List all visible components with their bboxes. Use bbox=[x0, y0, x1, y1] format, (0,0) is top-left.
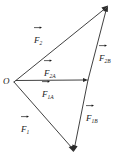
vector-label-F2-symbol: F bbox=[34, 35, 40, 45]
vector-label-F2B-symbol: F bbox=[99, 53, 105, 63]
vector-label-F1A: F1A bbox=[42, 84, 54, 100]
vector-label-F2B-subscript: 2B bbox=[105, 58, 111, 64]
vector-label-F1: F1 bbox=[21, 119, 29, 135]
vector-label-F2-subscript: 2 bbox=[40, 40, 43, 46]
vector-label-F1B: F1B bbox=[86, 108, 98, 124]
vector-decomposition-figure: O F2 F1 F2A F1A bbox=[0, 0, 120, 163]
vector-label-F1A-subscript: 1A bbox=[48, 94, 54, 100]
vector-F2B-shaft bbox=[88, 11, 106, 81]
vector-label-F1-subscript: 1 bbox=[27, 129, 30, 135]
vector-label-F1-symbol: F bbox=[21, 124, 27, 134]
vector-label-F2A-subscript: 2A bbox=[50, 73, 56, 79]
vector-F2B bbox=[88, 6, 108, 81]
vector-label-F2: F2 bbox=[34, 30, 42, 46]
vector-FA-arrowhead bbox=[83, 78, 88, 82]
vector-diagram-canvas bbox=[0, 0, 120, 163]
vector-FA-shaft bbox=[16, 80, 84, 81]
origin-label: O bbox=[3, 77, 10, 86]
vector-label-F2A-symbol: F bbox=[44, 68, 50, 78]
vector-label-F2A: F2A bbox=[44, 63, 56, 79]
vector-label-F1A-symbol: F bbox=[42, 89, 48, 99]
vector-F2 bbox=[14, 6, 108, 83]
vector-label-F1B-symbol: F bbox=[86, 113, 92, 123]
vector-label-F1B-subscript: 1B bbox=[92, 118, 98, 124]
vector-label-F2B: F2B bbox=[99, 48, 111, 64]
vector-F2-shaft bbox=[14, 9, 105, 82]
